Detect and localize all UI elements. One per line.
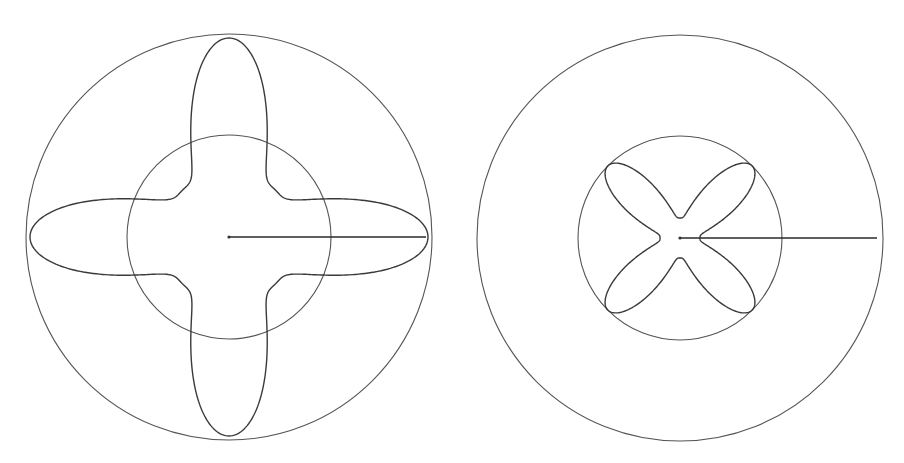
left-center-point: [227, 235, 230, 238]
right-center-point: [678, 236, 681, 239]
right-figure: [477, 35, 883, 441]
diagram-canvas: [0, 0, 904, 463]
left-figure: [26, 34, 432, 440]
